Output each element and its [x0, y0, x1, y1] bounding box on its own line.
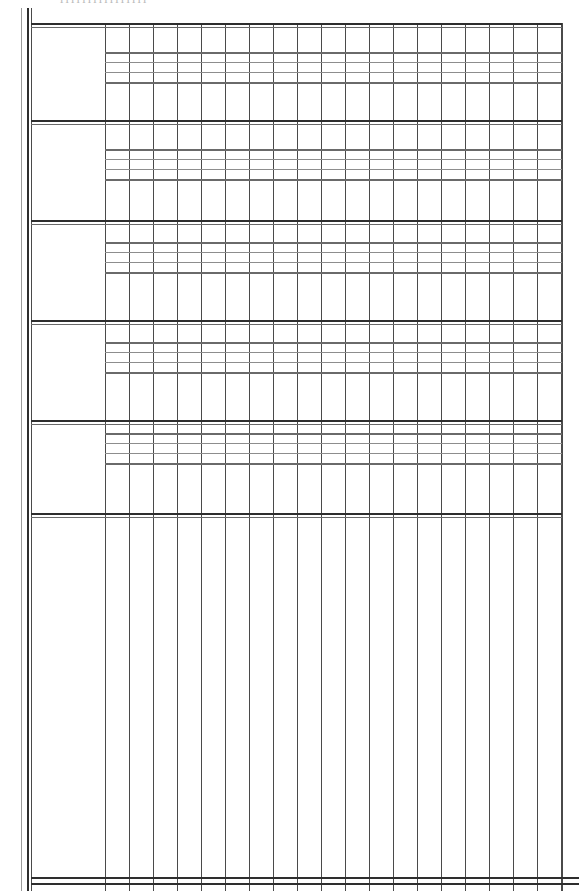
- column-rule-4: [177, 23, 178, 891]
- band-3-inner-rule-2: [105, 252, 562, 253]
- band-1-top-rule-lower: [31, 27, 562, 28]
- column-rule-20: [561, 23, 562, 891]
- column-rule-13: [393, 23, 394, 891]
- column-rule-17: [489, 23, 490, 891]
- column-rule-19: [537, 23, 538, 891]
- column-rule-10: [321, 23, 322, 891]
- band-1-inner-rule-3: [105, 72, 562, 73]
- column-rule-14: [417, 23, 418, 891]
- footer-rule-upper: [31, 877, 579, 879]
- band-5-top-rule-upper: [31, 420, 562, 422]
- band-4-top-rule-lower: [31, 324, 562, 325]
- band-2-inner-rule-2: [105, 159, 562, 160]
- footer-rule-lower: [31, 883, 579, 885]
- band-4-inner-rule-3: [105, 362, 562, 363]
- blank-entry-area[interactable]: [31, 518, 562, 877]
- cropped-header-text-strip: llllllllllllllll: [0, 0, 579, 7]
- column-rule-5: [201, 23, 202, 891]
- inner-margin-rule-b: [31, 8, 32, 891]
- band-1-inner-rule-1: [105, 52, 562, 54]
- band-2-top-rule-upper: [31, 120, 562, 122]
- band-4-inner-rule-1: [105, 342, 562, 344]
- band-1-inner-rule-2: [105, 62, 562, 63]
- band-3-inner-rule-1: [105, 242, 562, 244]
- outer-margin-rule: [21, 8, 22, 891]
- band-2-inner-rule-1: [105, 149, 562, 151]
- column-rule-1: [105, 23, 106, 891]
- inner-margin-rule-a: [27, 8, 29, 891]
- scanned-table-page: llllllllllllllll: [0, 0, 579, 891]
- band-5-inner-rule-2: [105, 443, 562, 444]
- band-2-inner-rule-4: [105, 179, 562, 181]
- column-rule-18: [513, 23, 514, 891]
- band-2-inner-rule-3: [105, 169, 562, 170]
- grid-right-edge-rule: [562, 23, 563, 891]
- column-rule-2: [129, 23, 130, 891]
- column-rule-9: [297, 23, 298, 891]
- band-4-inner-rule-4: [105, 372, 562, 374]
- column-rule-7: [249, 23, 250, 891]
- column-rule-8: [273, 23, 274, 891]
- band-4-top-rule-upper: [31, 320, 562, 322]
- band-5-inner-rule-4: [105, 463, 562, 465]
- section-closing-rule-upper: [31, 513, 562, 515]
- band-1-inner-rule-4: [105, 82, 562, 84]
- band-5-inner-rule-1: [105, 433, 562, 435]
- band-5-inner-rule-3: [105, 453, 562, 454]
- section-closing-rule-lower: [31, 517, 562, 518]
- row-label-column[interactable]: [31, 23, 105, 513]
- column-rule-16: [465, 23, 466, 891]
- column-rule-15: [441, 23, 442, 891]
- column-rule-6: [225, 23, 226, 891]
- band-3-inner-rule-3: [105, 262, 562, 263]
- column-rule-3: [153, 23, 154, 891]
- band-5-top-rule-lower: [31, 424, 562, 425]
- band-3-top-rule-upper: [31, 220, 562, 222]
- cropped-header-text: llllllllllllllll: [60, 0, 149, 7]
- band-1-top-rule-upper: [31, 23, 562, 25]
- band-3-top-rule-lower: [31, 224, 562, 225]
- band-2-top-rule-lower: [31, 124, 562, 125]
- band-4-inner-rule-2: [105, 352, 562, 353]
- column-rule-12: [369, 23, 370, 891]
- band-3-inner-rule-4: [105, 272, 562, 274]
- column-rule-11: [345, 23, 346, 891]
